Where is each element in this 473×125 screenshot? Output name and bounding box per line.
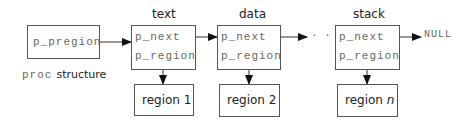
data-pregion-box: p_next p_region <box>217 25 281 70</box>
text-region-title: text <box>152 7 176 21</box>
region-1-box: region 1 <box>134 84 194 116</box>
data-region-title: data <box>239 7 266 21</box>
proc-structure-caption: proc structure <box>22 64 106 82</box>
p-region-field: p_region <box>221 50 282 62</box>
proc-structure-box: p_pregion <box>27 25 100 59</box>
null-terminator: NULL <box>424 29 452 40</box>
p-pregion-field: p_pregion <box>33 36 101 48</box>
p-region-field: p_region <box>135 50 196 62</box>
region-2-box: region 2 <box>219 84 280 117</box>
stack-pregion-box: p_next p_region <box>335 25 400 70</box>
p-next-field: p_next <box>135 31 181 43</box>
p-region-field: p_region <box>339 50 400 62</box>
text-pregion-box: p_next p_region <box>131 25 196 70</box>
p-next-field: p_next <box>221 31 267 43</box>
region-n-box: region n <box>337 84 398 117</box>
p-next-field: p_next <box>339 31 385 43</box>
stack-region-title: stack <box>353 7 385 21</box>
